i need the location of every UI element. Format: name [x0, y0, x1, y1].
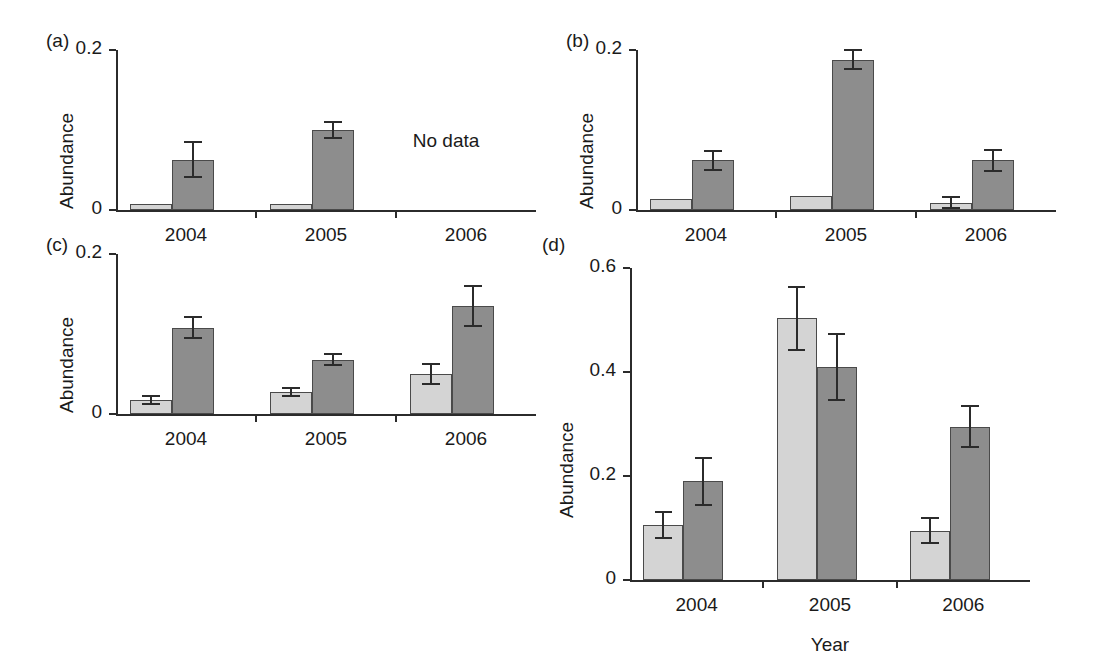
x-axis-line — [630, 580, 1030, 582]
error-bar-cap-upper — [984, 149, 1002, 151]
x-tick-label: 2004 — [116, 428, 256, 450]
panel-a-plot-area: 00.2200420052006No data — [116, 50, 536, 210]
error-bar-stem — [332, 122, 334, 138]
error-bar-cap-upper — [324, 353, 342, 355]
error-bar-cap-upper — [788, 286, 806, 288]
panel-d-ylabel: Abundance — [556, 368, 578, 518]
error-bar-cap-lower — [324, 137, 342, 139]
y-tick-label: 0.2 — [38, 241, 102, 263]
error-bar-stem — [702, 458, 704, 505]
x-tick-label: 2005 — [763, 594, 896, 616]
x-tick-label: 2006 — [396, 428, 536, 450]
error-bar-stem — [662, 512, 664, 538]
panel-a: (a) Abundance 00.2200420052006No data — [40, 28, 540, 228]
y-axis-line — [636, 50, 638, 210]
figure-canvas: (a) Abundance 00.2200420052006No data (b… — [0, 0, 1096, 671]
error-bar-stem — [969, 406, 971, 448]
x-tick-mark — [395, 414, 397, 422]
x-tick-mark — [762, 580, 764, 588]
y-tick-mark — [623, 267, 630, 269]
x-tick-mark — [255, 414, 257, 422]
x-tick-mark — [395, 210, 397, 218]
error-bar-cap-upper — [142, 395, 160, 397]
y-tick-label: 0.4 — [552, 359, 616, 381]
y-tick-mark — [623, 371, 630, 373]
y-tick-mark — [623, 475, 630, 477]
error-bar-cap-lower — [921, 542, 939, 544]
error-bar-cap-upper — [655, 511, 673, 513]
y-tick-label: 0 — [558, 197, 622, 219]
error-bar-stem — [992, 150, 994, 171]
y-tick-label: 0 — [552, 567, 616, 589]
bar-dark-2004 — [172, 328, 214, 414]
y-tick-mark — [623, 579, 630, 581]
y-tick-mark — [629, 49, 636, 51]
panel-c: (c) Abundance 00.2200420052006 — [40, 232, 540, 432]
error-bar-cap-upper — [704, 150, 722, 152]
x-tick-mark — [896, 580, 898, 588]
error-bar-cap-lower — [655, 537, 673, 539]
panel-b-ylabel: Abundance — [576, 59, 598, 209]
no-data-annotation: No data — [413, 130, 480, 152]
bar-light-2004 — [650, 199, 692, 210]
x-tick-mark — [255, 210, 257, 218]
bar-light-2005 — [777, 318, 817, 580]
error-bar-cap-upper — [184, 316, 202, 318]
error-bar-cap-lower — [422, 383, 440, 385]
error-bar-stem — [929, 518, 931, 543]
error-bar-cap-upper — [961, 405, 979, 407]
y-axis-line — [630, 268, 632, 580]
x-tick-label: 2006 — [897, 594, 1030, 616]
error-bar-cap-upper — [828, 333, 846, 335]
bar-dark-2005 — [832, 60, 874, 210]
error-bar-cap-upper — [422, 363, 440, 365]
y-tick-label: 0 — [38, 401, 102, 423]
error-bar-cap-upper — [695, 457, 713, 459]
x-axis-line — [636, 210, 1056, 212]
x-axis-line — [116, 210, 536, 212]
bar-dark-2006 — [950, 427, 990, 580]
error-bar-cap-upper — [324, 121, 342, 123]
y-tick-mark — [109, 413, 116, 415]
error-bar-cap-lower — [464, 325, 482, 327]
error-bar-stem — [472, 286, 474, 326]
x-axis-line — [116, 414, 536, 416]
error-bar-stem — [430, 364, 432, 385]
error-bar-cap-upper — [844, 49, 862, 51]
error-bar-cap-lower — [184, 176, 202, 178]
panel-d: (d) Abundance 00.20.40.6200420052006 Yea… — [520, 232, 1060, 662]
panel-d-label: (d) — [542, 234, 565, 256]
panel-b: (b) Abundance 00.2200420052006 — [560, 28, 1060, 228]
error-bar-cap-lower — [282, 395, 300, 397]
error-bar-cap-lower — [961, 446, 979, 448]
error-bar-cap-lower — [828, 399, 846, 401]
x-tick-mark — [775, 210, 777, 218]
y-tick-mark — [109, 49, 116, 51]
error-bar-stem — [796, 287, 798, 349]
error-bar-stem — [192, 317, 194, 338]
error-bar-cap-lower — [695, 504, 713, 506]
y-tick-mark — [109, 209, 116, 211]
error-bar-stem — [852, 50, 854, 69]
error-bar-cap-lower — [142, 403, 160, 405]
x-tick-mark — [915, 210, 917, 218]
error-bar-cap-lower — [704, 169, 722, 171]
error-bar-cap-upper — [921, 517, 939, 519]
panel-c-plot-area: 00.2200420052006 — [116, 254, 536, 414]
y-tick-label: 0.2 — [38, 37, 102, 59]
y-tick-label: 0 — [38, 197, 102, 219]
panel-b-plot-area: 00.2200420052006 — [636, 50, 1056, 210]
y-tick-mark — [629, 209, 636, 211]
error-bar-cap-lower — [324, 364, 342, 366]
x-tick-label: 2005 — [256, 428, 396, 450]
panel-d-plot-area: 00.20.40.6200420052006 — [630, 268, 1030, 580]
bar-light-2005 — [790, 196, 832, 210]
error-bar-cap-upper — [282, 387, 300, 389]
panel-d-xlabel: Year — [630, 634, 1030, 656]
error-bar-stem — [192, 142, 194, 177]
bar-dark-2005 — [312, 130, 354, 210]
error-bar-cap-lower — [942, 207, 960, 209]
bar-light-2005 — [270, 204, 312, 210]
bar-dark-2005 — [312, 360, 354, 414]
error-bar-cap-upper — [942, 196, 960, 198]
